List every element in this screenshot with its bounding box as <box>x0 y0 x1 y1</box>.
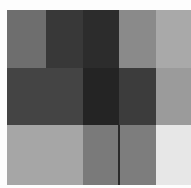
gray-block <box>83 68 119 125</box>
gray-block <box>119 10 156 68</box>
gray-block <box>119 125 156 185</box>
gray-block <box>46 10 83 68</box>
gray-block <box>7 125 83 185</box>
gray-block <box>156 125 191 185</box>
grayscale-mosaic <box>0 0 191 188</box>
gray-block <box>119 68 156 125</box>
gray-block <box>156 68 191 125</box>
gray-block <box>7 68 83 125</box>
gray-block <box>83 10 119 68</box>
gray-block <box>83 125 119 185</box>
divider-line <box>118 125 120 185</box>
gray-block <box>156 10 191 68</box>
gray-block <box>7 10 46 68</box>
